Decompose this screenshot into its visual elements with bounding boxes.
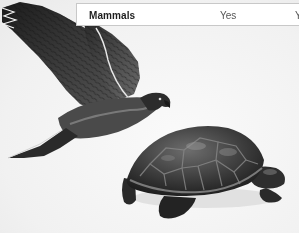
turtle-illustration [122, 126, 285, 219]
classification-table: Mammals Yes Y [76, 3, 299, 26]
table-row: Mammals Yes Y [77, 4, 299, 25]
textbook-page: Mammals Yes Y [0, 0, 299, 233]
row-header-mammals: Mammals [89, 4, 135, 25]
table-cell: Y [295, 4, 299, 25]
illustrations [0, 0, 299, 233]
table-cell: Yes [220, 4, 236, 25]
